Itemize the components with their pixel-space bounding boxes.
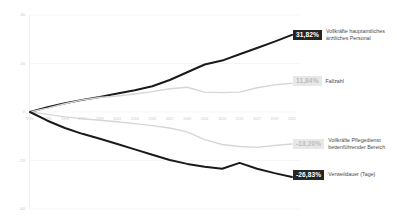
- series-name-label: Vollkräfte Pflegedienst bettenführender …: [328, 137, 385, 151]
- y-axis-tick-labels: 40200-20-40: [19, 12, 26, 211]
- series-end-label: 11,84%Fallzahl: [293, 76, 344, 86]
- y-axis-tick-label: -20: [19, 158, 26, 163]
- y-axis-tick-label: -40: [19, 206, 26, 211]
- x-axis-tick-label: 2019: [271, 117, 279, 121]
- series-value-badge: 11,84%: [293, 76, 322, 86]
- x-axis-tick-label: 2005: [148, 117, 156, 121]
- series-value-badge: -13,20%: [293, 139, 324, 149]
- x-axis-tick-label: 1991: [26, 117, 34, 121]
- series-end-label: 31,82%Vollkräfte hauptamtliches ärztlich…: [293, 28, 385, 42]
- x-axis-tick-label: 2013: [218, 117, 226, 121]
- series-line-0: [30, 35, 292, 112]
- gridlines-group: [30, 15, 300, 209]
- series-name-label: Vollkräfte hauptamtliches ärztliches Per…: [326, 28, 385, 42]
- x-axis-tick-label: 2015: [236, 117, 244, 121]
- chart-container: 40200-20-40 1991199319951997199920012003…: [0, 0, 397, 223]
- series-line-3: [30, 112, 292, 177]
- x-axis-tick-label: 2001: [113, 117, 121, 121]
- x-axis-tick-label: 2017: [253, 117, 261, 121]
- x-axis-tick-label: 2021: [288, 117, 296, 121]
- series-name-label: Verweildauer (Tage): [328, 171, 375, 178]
- series-end-label: -26,83%Verweildauer (Tage): [293, 170, 375, 180]
- y-axis-tick-label: 40: [20, 12, 25, 17]
- x-axis-tick-label: 2003: [131, 117, 139, 121]
- x-axis-tick-label: 2011: [201, 117, 209, 121]
- series-end-label: -13,20%Vollkräfte Pflegedienst bettenfüh…: [293, 137, 385, 151]
- series-value-badge: -26,83%: [293, 170, 324, 180]
- series-name-label: Fallzahl: [326, 78, 344, 85]
- series-value-badge: 31,82%: [293, 30, 322, 40]
- y-axis-tick-label: 0: [23, 109, 26, 114]
- series-lines-group: [30, 35, 292, 177]
- y-axis-tick-label: 20: [20, 61, 25, 66]
- x-axis-tick-label: 2009: [183, 117, 191, 121]
- series-line-1: [30, 83, 292, 112]
- x-axis-tick-label: 2007: [166, 117, 174, 121]
